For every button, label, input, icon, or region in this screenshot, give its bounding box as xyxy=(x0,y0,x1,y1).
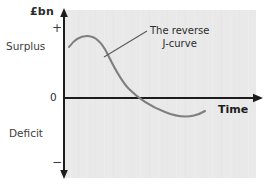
curve-annotation-line-1: The reverse xyxy=(150,24,209,37)
chart-canvas xyxy=(0,0,275,191)
surplus-region-label: Surplus xyxy=(6,41,45,52)
deficit-region-label: Deficit xyxy=(9,128,43,139)
x-axis-label: Time xyxy=(218,104,248,115)
x-axis-arrow-right xyxy=(253,94,263,102)
y-axis-unit-label: £bn xyxy=(30,6,54,17)
curve-annotation: The reverse J-curve xyxy=(150,24,209,50)
reverse-j-curve-figure: £bn + − Surplus Deficit 0 Time The rever… xyxy=(0,0,275,191)
y-axis-zero-label: 0 xyxy=(50,92,57,103)
curve-annotation-line-2: J-curve xyxy=(150,37,209,50)
y-axis-negative-sign: − xyxy=(52,156,62,168)
y-axis-positive-sign: + xyxy=(52,22,62,34)
